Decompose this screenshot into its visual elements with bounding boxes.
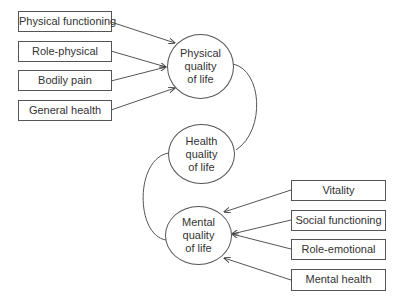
curve-health-to-mental [143,153,169,240]
node-line: quality [180,60,221,73]
box-label: Bodily pain [38,74,92,86]
node-line: Health [186,135,218,148]
box-label: Role-physical [32,45,98,57]
node-line: Physical [180,47,221,60]
box-label: Social functioning [295,214,381,226]
node-line: quality [186,148,218,161]
box-mental-health: Mental health [291,269,386,291]
box-label: General health [29,104,101,116]
node-health-quality-of-life: Health quality of life [168,124,235,184]
node-line: quality [182,229,215,242]
box-role-physical: Role-physical [18,41,112,62]
arrow-vitality [224,190,291,212]
node-mental-quality-of-life: Mental quality of life [165,206,232,265]
arrow-role-emotional [232,234,291,249]
node-line: of life [186,161,218,174]
box-label: Physical functioning [19,15,116,27]
arrow-bodily-pain [111,67,166,81]
box-general-health: General health [18,100,112,121]
arrow-physical-functioning [111,22,175,43]
arrow-general-health [111,88,175,110]
node-line: of life [182,242,215,255]
box-physical-functioning: Physical functioning [18,11,112,32]
box-bodily-pain: Bodily pain [18,70,112,91]
arrow-mental-health [224,258,291,280]
node-line: of life [180,73,221,86]
arrow-social-functioning [232,220,291,234]
box-social-functioning: Social functioning [291,210,386,231]
box-label: Mental health [305,273,371,285]
arrow-role-physical [111,51,166,67]
box-vitality: Vitality [291,180,386,201]
box-label: Vitality [322,184,354,196]
box-label: Role-emotional [302,243,376,255]
box-role-emotional: Role-emotional [291,239,386,260]
node-line: Mental [182,216,215,229]
node-physical-quality-of-life: Physical quality of life [167,34,234,99]
curve-physical-to-health [233,64,257,150]
